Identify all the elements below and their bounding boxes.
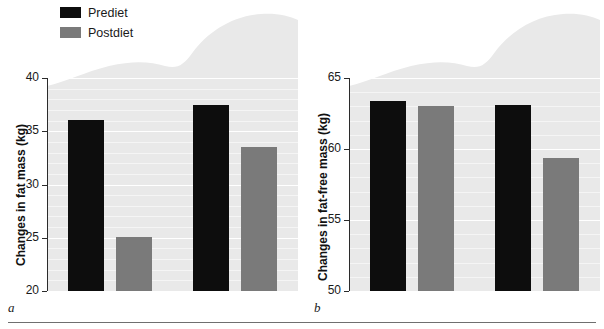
bar-prediet-nonexercise xyxy=(495,105,531,291)
y-tick-mark xyxy=(344,220,349,221)
plot-area-a: 2025303540ExerciseNonexercise xyxy=(47,78,298,291)
plot-area-b: 50556065ExerciseNonexercise xyxy=(349,78,600,291)
gridline-major xyxy=(47,291,298,292)
bar-prediet-nonexercise xyxy=(193,105,229,291)
bar-postdiet-exercise xyxy=(418,106,454,291)
y-axis-label-b: Changes in fat-free mass (kg) xyxy=(316,113,330,281)
gridline-minor xyxy=(47,89,298,90)
y-tick-mark xyxy=(42,131,47,132)
y-axis-line xyxy=(349,78,350,291)
figure: Prediet Postdiet 2025303540ExerciseNonex… xyxy=(0,0,604,329)
bar-postdiet-nonexercise xyxy=(543,158,579,291)
gridline-minor xyxy=(47,99,298,100)
bottom-divider xyxy=(8,322,596,323)
bar-postdiet-exercise xyxy=(116,237,152,291)
panel-letter-a: a xyxy=(8,300,15,316)
y-tick-mark xyxy=(42,238,47,239)
y-tick-mark xyxy=(42,78,47,79)
y-tick-label: 50 xyxy=(311,283,341,297)
gridline-major xyxy=(349,78,600,79)
bar-prediet-exercise xyxy=(370,101,406,291)
y-tick-mark xyxy=(344,78,349,79)
gridline-major xyxy=(349,291,600,292)
y-tick-mark xyxy=(42,185,47,186)
y-tick-mark xyxy=(344,291,349,292)
panel-a: 2025303540ExerciseNonexercise Changes in… xyxy=(0,0,302,329)
gridline-minor xyxy=(349,92,600,93)
y-axis-line xyxy=(47,78,48,291)
gridline-minor xyxy=(47,110,298,111)
y-tick-mark xyxy=(344,149,349,150)
panel-b: 50556065ExerciseNonexercise Changes in f… xyxy=(302,0,604,329)
y-tick-label: 40 xyxy=(9,70,39,84)
y-tick-label: 20 xyxy=(9,283,39,297)
gridline-major xyxy=(47,78,298,79)
bar-prediet-exercise xyxy=(68,120,104,291)
panel-letter-b: b xyxy=(314,300,321,316)
bar-postdiet-nonexercise xyxy=(241,147,277,291)
y-tick-label: 65 xyxy=(311,70,341,84)
y-axis-label-a: Changes in fat mass (kg) xyxy=(14,124,28,266)
y-tick-mark xyxy=(42,291,47,292)
